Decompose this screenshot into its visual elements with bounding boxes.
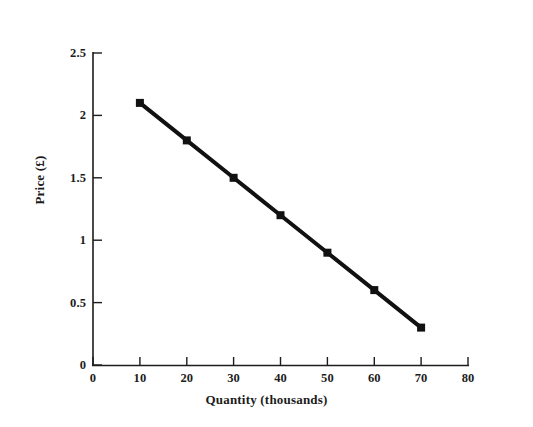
x-axis-title: Quantity (thousands) xyxy=(0,392,533,408)
demand-curve-chart: 0 0.5 1 1.5 2 2.5 0 10 20 30 40 50 60 70… xyxy=(0,0,533,427)
xtick-label-0: 0 xyxy=(90,371,96,386)
xtick-label-1: 10 xyxy=(134,371,147,386)
ytick-label-1: 0.5 xyxy=(52,295,86,310)
ytick-label-2: 1 xyxy=(52,233,86,248)
xtick-label-7: 70 xyxy=(415,371,428,386)
y-axis-title: Price (£) xyxy=(32,130,48,230)
ytick-label-0: 0 xyxy=(52,358,86,373)
data-point xyxy=(277,211,285,219)
data-point xyxy=(136,99,144,107)
data-point xyxy=(370,286,378,294)
xtick-label-4: 40 xyxy=(274,371,287,386)
data-point xyxy=(230,174,238,182)
data-point xyxy=(417,324,425,332)
data-point xyxy=(323,249,331,257)
xtick-label-3: 30 xyxy=(227,371,240,386)
xtick-label-5: 50 xyxy=(321,371,334,386)
xtick-label-6: 60 xyxy=(368,371,381,386)
y-axis-ticks xyxy=(93,53,102,365)
x-axis-ticks xyxy=(93,357,468,365)
ytick-label-5: 2.5 xyxy=(52,46,86,61)
data-point xyxy=(183,136,191,144)
ytick-label-3: 1.5 xyxy=(52,170,86,185)
xtick-label-8: 80 xyxy=(462,371,475,386)
xtick-label-2: 20 xyxy=(180,371,193,386)
ytick-label-4: 2 xyxy=(52,108,86,123)
